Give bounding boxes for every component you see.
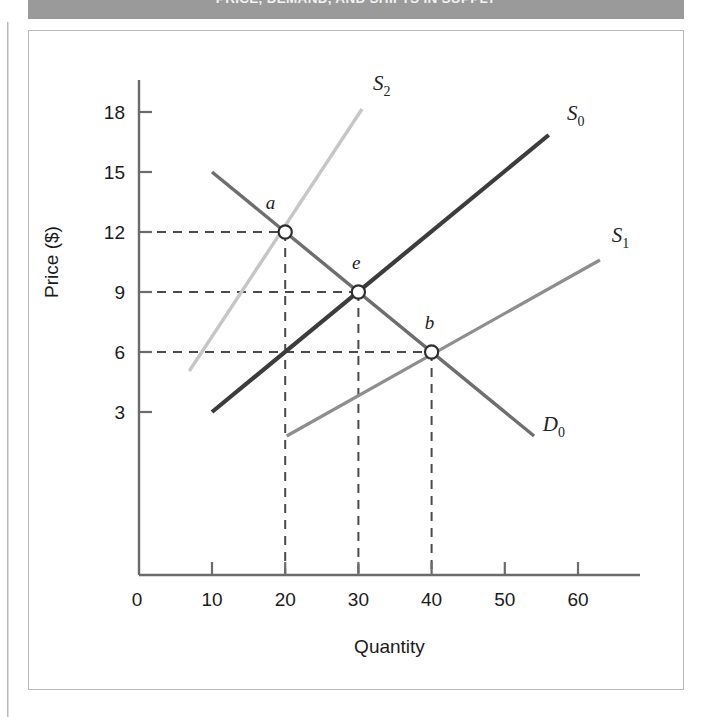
curve-label-S1: S1 [612, 223, 630, 251]
curve-label-D0: D0 [542, 412, 565, 440]
x-tick-label-0: 0 [132, 589, 143, 610]
curve-D0 [212, 172, 534, 436]
x-tick-label-40: 40 [421, 589, 442, 610]
x-tick-label-10: 10 [201, 589, 222, 610]
data-point-e[interactable] [352, 285, 365, 298]
curve-S1 [287, 260, 600, 436]
y-tick-label-12: 12 [104, 222, 125, 243]
chart-canvas: 3691215180102030405060QuantityPrice ($)S… [0, 0, 712, 717]
data-point-b[interactable] [425, 345, 438, 358]
y-tick-label-6: 6 [114, 342, 125, 363]
x-axis-title: Quantity [354, 636, 425, 657]
y-axis-title: Price ($) [41, 226, 62, 298]
x-tick-label-60: 60 [567, 589, 588, 610]
y-tick-label-18: 18 [104, 102, 125, 123]
x-tick-label-50: 50 [494, 589, 515, 610]
x-tick-label-20: 20 [275, 589, 296, 610]
data-point-label-e: e [352, 252, 360, 273]
supply-demand-chart: 3691215180102030405060QuantityPrice ($)S… [0, 0, 712, 717]
y-tick-label-9: 9 [114, 282, 125, 303]
data-point-label-a: a [266, 192, 276, 213]
y-tick-label-3: 3 [114, 402, 125, 423]
x-tick-label-30: 30 [348, 589, 369, 610]
curve-label-S0: S0 [567, 101, 585, 129]
y-tick-label-15: 15 [104, 162, 125, 183]
curve-S0 [212, 135, 549, 412]
data-point-a[interactable] [279, 225, 292, 238]
data-point-label-b: b [425, 312, 435, 333]
curve-S2 [189, 109, 362, 371]
curve-label-S2: S2 [373, 71, 391, 99]
